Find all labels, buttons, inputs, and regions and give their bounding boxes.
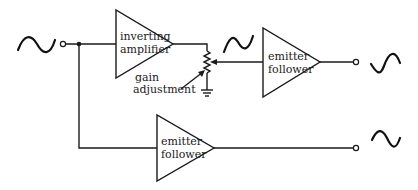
emitter-follower-2-label-2: follower [161,148,207,161]
emitter-follower-1-label-1: emitter [268,50,310,63]
output-terminal-2 [353,145,358,150]
inverting-amplifier-block: inverting amplifier [116,10,173,78]
output-bottom-sine-wave-icon [372,131,400,147]
emitter-follower-2-label-1: emitter [161,135,203,148]
input-sine-wave-icon [18,37,55,52]
inverting-amplifier-label-1: inverting [120,30,171,43]
mid-sine-wave-icon [224,36,253,52]
amp-output-wire [173,44,207,51]
input-terminal [60,41,65,46]
emitter-follower-1-label-2: follower [268,63,314,76]
inverting-amplifier-label-2: amplifier [120,43,171,56]
emitter-follower-2-block: emitter follower [157,115,214,181]
output-top-sine-wave-icon [371,54,400,72]
output-terminal-1 [353,59,358,64]
wiper-arrow-icon [210,59,217,65]
gain-pointer-arrow-icon [198,70,205,77]
phase-splitter-diagram: inverting amplifier gain adjustment emit… [0,0,418,190]
emitter-follower-1-block: emitter follower [263,28,320,97]
